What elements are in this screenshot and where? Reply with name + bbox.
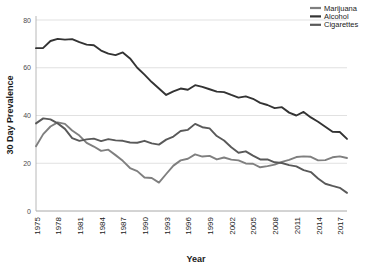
y-axis-title: 30 Day Prevalence [5,75,15,154]
legend-label-cigarettes: Cigarettes [324,20,358,29]
x-tick-label: 2011 [293,216,302,234]
y-tick-label: 20 [23,160,31,167]
x-tick-label: 1984 [98,216,107,234]
prevalence-line-chart: 020406080 197519781981198419871990199319… [0,0,381,266]
x-tick-label: 1990 [141,216,150,234]
y-tick-label: 80 [23,17,31,24]
x-tick-label: 2008 [271,216,280,234]
series-line-alcohol [36,39,347,139]
x-tick-label: 1978 [54,216,63,234]
x-tick-label: 1987 [119,216,128,234]
y-tick-label: 40 [23,112,31,119]
y-tick-labels-group: 020406080 [23,17,31,215]
chart-canvas: 020406080 197519781981198419871990199319… [0,0,381,266]
x-tick-label: 2002 [228,216,237,234]
x-tick-label: 1993 [163,216,172,234]
x-tick-label: 2005 [249,216,258,234]
x-tick-label: 1975 [33,216,42,234]
x-tick-label: 2014 [315,216,324,234]
gridlines-group [36,20,347,211]
x-tick-label: 1999 [206,216,215,234]
x-tick-label: 1996 [184,216,193,234]
x-tick-label: 2017 [336,216,345,234]
y-tick-label: 0 [27,208,31,215]
y-tick-label: 60 [23,64,31,71]
x-axis-title: Year [186,254,206,264]
legend-group: MarijuanaAlcoholCigarettes [310,4,358,30]
series-line-marijuana [36,122,347,182]
x-tick-label: 1981 [76,216,85,234]
x-tick-labels-group: 1975197819811984198719901993199619992002… [33,216,346,234]
